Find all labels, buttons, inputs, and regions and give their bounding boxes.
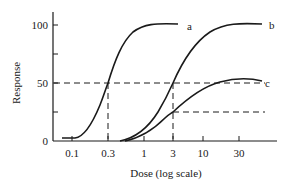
y-tick-label-100: 100 — [32, 19, 49, 31]
y-tick-label-0: 0 — [43, 135, 49, 147]
curve-a — [62, 24, 178, 138]
x-tick-label-1: 1 — [141, 147, 147, 159]
curve-label-b: b — [269, 19, 275, 31]
curve-label-c: c — [265, 77, 270, 89]
x-tick-label-10: 10 — [198, 147, 210, 159]
y-axis-title: Response — [10, 62, 22, 104]
dose-response-chart: 100 50 0 0.1 0.3 1 3 10 30 Dose (log sca… — [0, 0, 293, 183]
curve-c — [125, 79, 262, 141]
x-tick-label-0.1: 0.1 — [65, 147, 79, 159]
reference-lines — [54, 83, 265, 141]
y-tick-label-50: 50 — [37, 77, 49, 89]
curve-b — [120, 24, 262, 141]
x-tick-label-30: 30 — [234, 147, 246, 159]
y-ticks — [53, 25, 58, 112]
x-tick-label-0.3: 0.3 — [101, 147, 115, 159]
x-axis-title: Dose (log scale) — [130, 167, 202, 180]
x-ticks — [72, 136, 239, 141]
curve-label-a: a — [187, 20, 192, 32]
x-tick-label-3: 3 — [170, 147, 176, 159]
